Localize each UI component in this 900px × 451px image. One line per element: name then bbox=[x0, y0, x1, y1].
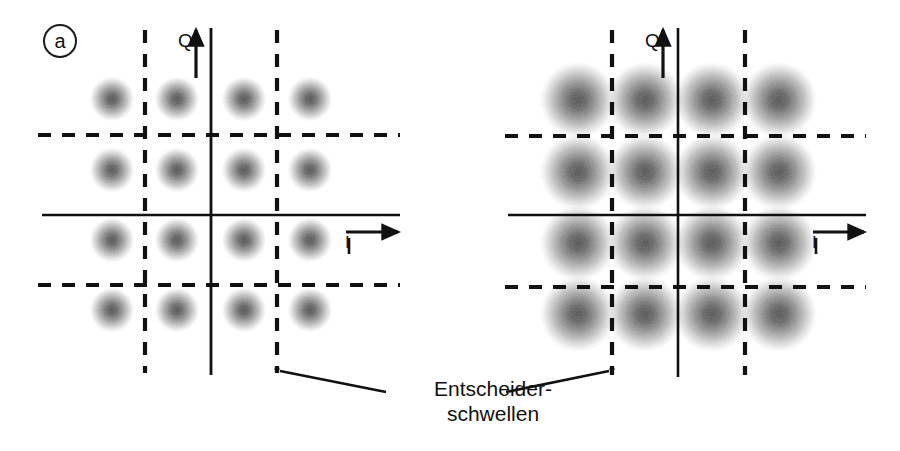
axis-i-label: I bbox=[812, 234, 817, 251]
axis-i-label: I bbox=[345, 234, 350, 251]
qam-constellation-figure: a Q I b Q I Entscheider- schwellen bbox=[0, 0, 900, 451]
caption-line-1: Entscheider- bbox=[393, 377, 593, 402]
axis-q-label: Q bbox=[178, 31, 193, 50]
panel-label-a: a bbox=[43, 24, 77, 58]
panel-a: a Q I bbox=[0, 0, 450, 451]
caption-line-2: schwellen bbox=[393, 402, 593, 427]
axis-q-label: Q bbox=[645, 31, 660, 50]
caption-entscheiderschwellen: Entscheider- schwellen bbox=[393, 377, 593, 427]
